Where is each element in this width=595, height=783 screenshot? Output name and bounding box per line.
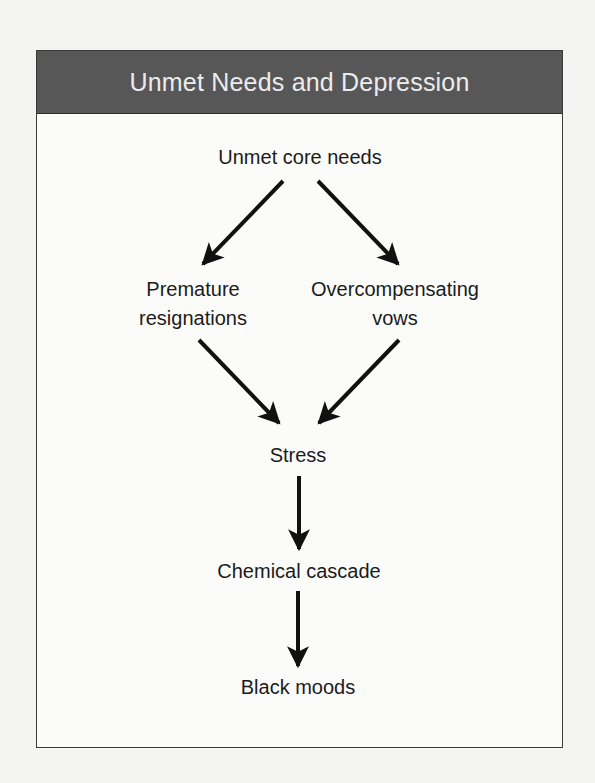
- node-stress: Stress: [270, 441, 327, 470]
- arrow-right-to-stress: [319, 340, 399, 423]
- arrow-root-to-right: [318, 181, 398, 264]
- node-unmet-core-needs: Unmet core needs: [218, 143, 381, 172]
- arrow-root-to-left: [203, 181, 283, 264]
- node-overcompensating-vows: Overcompensating vows: [311, 275, 479, 333]
- node-label: Stress: [270, 444, 327, 466]
- node-premature-resignations: Premature resignations: [139, 275, 247, 333]
- node-label: Unmet core needs: [218, 146, 381, 168]
- arrow-left-to-stress: [199, 340, 279, 423]
- node-label: Black moods: [241, 676, 356, 698]
- node-black-moods: Black moods: [241, 673, 356, 702]
- node-label: Chemical cascade: [217, 560, 380, 582]
- node-label-line2: vows: [311, 304, 479, 333]
- node-label-line2: resignations: [139, 304, 247, 333]
- node-label-line1: Premature: [139, 275, 247, 304]
- node-chemical-cascade: Chemical cascade: [217, 557, 380, 586]
- node-label-line1: Overcompensating: [311, 275, 479, 304]
- arrows-layer: [0, 0, 595, 783]
